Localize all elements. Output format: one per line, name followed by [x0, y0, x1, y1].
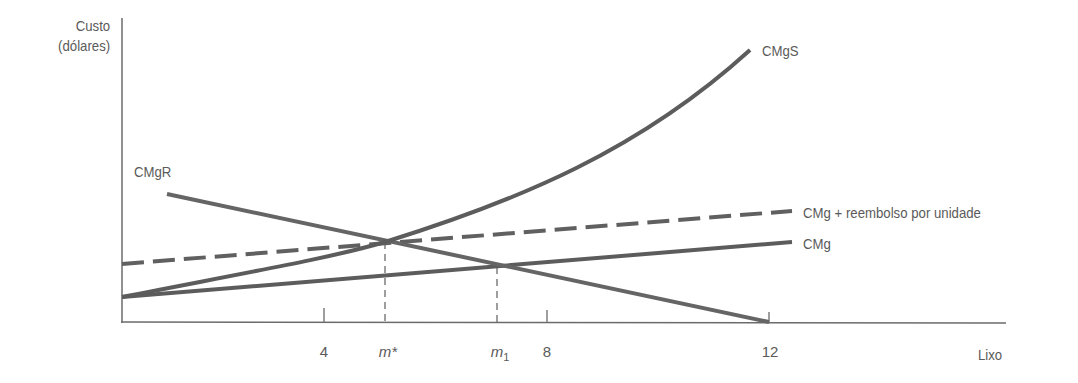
x-tick-label-12: 12	[762, 343, 779, 360]
x-tick-label-m1: m1	[491, 343, 510, 363]
x-axis	[121, 322, 1006, 323]
chart-canvas	[0, 0, 1078, 383]
x-tick-label-4: 4	[320, 343, 328, 360]
y-axis-label: Custo (dólares)	[58, 16, 110, 56]
m1-subscript: 1	[503, 351, 509, 363]
cmg-label: CMg	[803, 235, 831, 252]
cmgs-curve	[122, 50, 750, 297]
m1-base: m	[491, 343, 504, 360]
x-axis-label: Lixo	[978, 346, 1002, 363]
cmg-line	[122, 242, 792, 297]
y-axis-label-line1: Custo	[58, 16, 110, 36]
x-tick-label-m-star: m*	[379, 343, 397, 360]
cmg-reembolso-label: CMg + reembolso por unidade	[803, 204, 981, 221]
y-axis-label-line2: (dólares)	[58, 36, 110, 56]
cmgr-label: CMgR	[134, 163, 171, 180]
x-tick-label-8: 8	[543, 343, 551, 360]
cmgs-label: CMgS	[762, 42, 799, 59]
